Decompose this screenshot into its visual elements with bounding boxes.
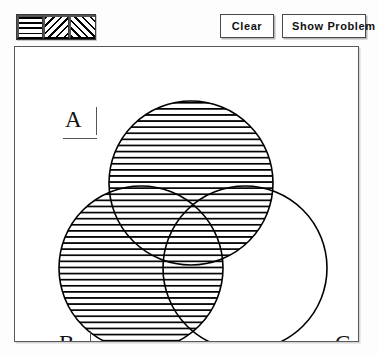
set-label-b-text: B (59, 332, 74, 342)
set-label-a-horizontal-rule (63, 138, 97, 139)
pattern-button-backslash-lines[interactable] (43, 15, 69, 39)
app-root: Clear Show Problem (0, 0, 378, 355)
set-label-c: C (333, 331, 359, 342)
pattern-button-forwardslash-lines[interactable] (69, 15, 95, 39)
set-label-a: A (63, 107, 97, 139)
set-label-b-vertical-rule (90, 331, 91, 342)
set-label-b: B (57, 331, 91, 342)
set-label-a-text: A (65, 108, 82, 131)
set-label-c-text: C (335, 332, 350, 342)
venn-diagram[interactable] (15, 47, 358, 341)
venn-canvas[interactable]: A B C (14, 46, 359, 342)
pattern-button-horizontal-lines[interactable] (17, 15, 43, 39)
clear-button[interactable]: Clear (220, 14, 274, 38)
set-label-a-vertical-rule (96, 107, 97, 135)
pattern-picker[interactable] (16, 14, 96, 40)
toolbar: Clear Show Problem (0, 8, 378, 42)
show-problem-button[interactable]: Show Problem (282, 14, 366, 38)
